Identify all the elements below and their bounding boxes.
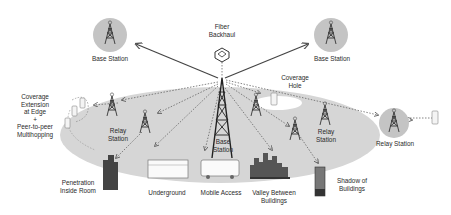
network-diagram: Fiber Backhaul Base Station Base Station…: [0, 0, 451, 215]
valley-label: Valley Between Buildings: [252, 189, 296, 204]
base-station-center-label: Base Station: [213, 138, 233, 153]
mobile-access-label: Mobile Access: [201, 189, 242, 197]
shadow-label: Shadow of Buildings: [337, 177, 367, 192]
shadow-building-icon: [315, 167, 325, 196]
underground-label: Underground: [148, 189, 185, 197]
coverage-extension-label: Coverage Extension at Edge + Peer-to-pee…: [17, 93, 53, 139]
coverage-hole-label: Coverage Hole: [281, 74, 309, 89]
penetration-label: Penetration Inside Room: [60, 179, 96, 194]
fiber-backhaul-label: Fiber Backhaul: [209, 23, 235, 38]
relay-station-right-label: Relay Station: [316, 128, 336, 143]
base-station-left-label: Base Station: [92, 55, 128, 63]
relay-station-left-label: Relay Station: [108, 127, 128, 142]
relay-station-outer-label: Relay Station: [376, 140, 414, 148]
mobile-access-bus-icon: [201, 160, 239, 179]
underground-train-icon: [148, 160, 188, 178]
base-station-right-label: Base Station: [314, 55, 350, 63]
fiber-backhaul-icon: [215, 48, 229, 62]
